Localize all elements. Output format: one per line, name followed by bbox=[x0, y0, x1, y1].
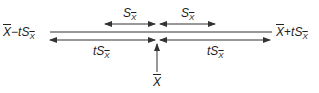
right-bound-label: X+tSX bbox=[276, 26, 308, 41]
left-bound-label: X−tSX bbox=[3, 26, 35, 41]
top-right-span-label: SX bbox=[181, 7, 194, 22]
top-left-span-label: SX bbox=[123, 7, 136, 22]
bottom-right-span-label: tSX bbox=[207, 45, 224, 60]
bottom-left-span-label: tSX bbox=[93, 45, 110, 60]
center-mean-label: X bbox=[153, 76, 161, 88]
